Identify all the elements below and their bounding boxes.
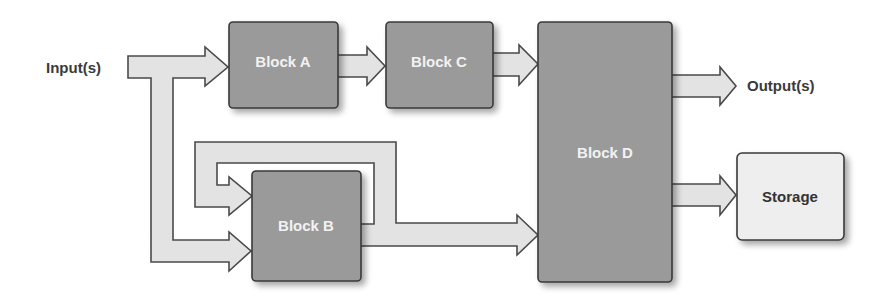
feedback-arrow: [195, 142, 538, 255]
c-to-d-arrow: [491, 45, 538, 85]
block-b-label: Block B: [278, 217, 334, 234]
input-label: Input(s): [46, 59, 101, 76]
block-a-label: Block A: [255, 53, 310, 70]
a-to-c-arrow: [336, 47, 385, 85]
block-diagram: Block A Block C Block B Block D Storage …: [0, 0, 888, 304]
block-d-label: Block D: [577, 144, 633, 161]
storage-label: Storage: [762, 188, 818, 205]
output-label: Output(s): [747, 77, 814, 94]
d-to-output-arrow: [670, 67, 736, 105]
d-to-storage-arrow: [670, 176, 736, 215]
block-c-label: Block C: [411, 53, 467, 70]
